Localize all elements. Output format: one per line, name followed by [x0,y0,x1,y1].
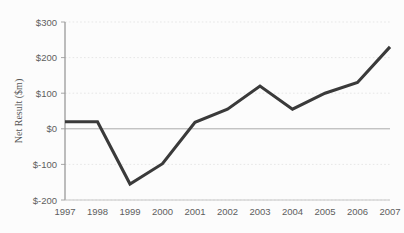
chart-canvas: $300$200$100$0$-100$-200 199719981999200… [0,0,404,233]
y-tick-label: $300 [36,17,57,28]
x-tick-label: 1999 [119,206,140,217]
x-tick-label: 2002 [217,206,238,217]
net-result-line-chart: $300$200$100$0$-100$-200 199719981999200… [0,0,404,233]
gridlines-group [65,22,390,200]
y-tick-label: $200 [36,52,57,63]
x-tick-label: 2006 [347,206,368,217]
x-tick-label: 2005 [314,206,335,217]
series-group [65,47,390,184]
ytick-labels-group: $300$200$100$0$-100$-200 [33,17,57,206]
x-tick-label: 1997 [54,206,75,217]
x-tick-label: 2007 [379,206,400,217]
y-axis-title: Net Result ($m) [13,79,25,143]
x-tick-label: 2004 [282,206,303,217]
y-tick-label: $-100 [33,159,57,170]
x-tick-label: 1998 [87,206,108,217]
axis-title-group: Net Result ($m) [13,79,25,143]
series-line-net-result [65,47,390,184]
xtick-labels-group: 1997199819992000200120022003200420052006… [54,206,400,217]
y-tick-label: $100 [36,88,57,99]
y-tick-label: $0 [46,123,57,134]
x-tick-label: 2003 [249,206,270,217]
x-tick-label: 2001 [184,206,205,217]
y-tick-label: $-200 [33,195,57,206]
x-tick-label: 2000 [152,206,173,217]
